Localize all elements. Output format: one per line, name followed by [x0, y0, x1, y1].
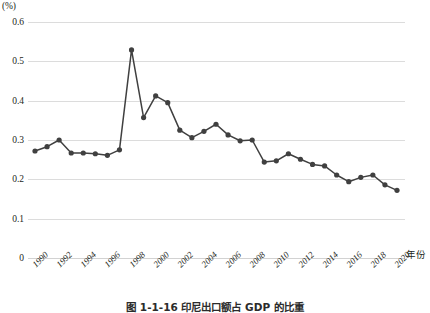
data-point	[117, 147, 122, 152]
data-point	[153, 93, 158, 98]
data-point	[57, 137, 62, 142]
data-point	[32, 148, 37, 153]
data-point	[262, 159, 267, 164]
data-point	[69, 150, 74, 155]
series-markers	[32, 47, 399, 193]
data-point	[81, 150, 86, 155]
data-point	[213, 122, 218, 127]
y-tick-0.3: 0.3	[0, 135, 24, 145]
data-point	[93, 151, 98, 156]
data-point	[334, 172, 339, 177]
y-tick-0.1: 0.1	[0, 214, 24, 224]
data-point	[201, 129, 206, 134]
data-point	[346, 179, 351, 184]
data-point	[370, 172, 375, 177]
data-point	[358, 175, 363, 180]
x-axis-title: 年份	[406, 249, 426, 260]
y-tick-0: 0	[0, 253, 24, 263]
data-point	[141, 115, 146, 120]
data-point	[129, 47, 134, 52]
y-axis-unit-label: (%)	[2, 1, 16, 11]
data-point	[298, 157, 303, 162]
data-point	[165, 100, 170, 105]
y-tick-0.2: 0.2	[0, 174, 24, 184]
data-point	[250, 137, 255, 142]
data-point	[394, 188, 399, 193]
data-point	[322, 163, 327, 168]
data-point	[238, 138, 243, 143]
data-point	[177, 128, 182, 133]
data-point	[225, 132, 230, 137]
data-point	[189, 135, 194, 140]
figure-caption: 图 1-1-16 印尼出口额占 GDP 的比重	[0, 301, 430, 313]
series-polyline	[35, 50, 397, 190]
data-point	[274, 158, 279, 163]
data-point	[310, 162, 315, 167]
plot-area	[28, 22, 405, 258]
y-tick-0.6: 0.6	[0, 17, 24, 27]
data-point	[105, 153, 110, 158]
y-tick-0.5: 0.5	[0, 56, 24, 66]
data-point	[286, 151, 291, 156]
y-tick-0.4: 0.4	[0, 96, 24, 106]
data-point	[382, 182, 387, 187]
data-point	[44, 144, 49, 149]
chart-figure: (%) 00.10.20.30.40.50.6 1990199219941996…	[0, 0, 430, 313]
data-series-line	[28, 22, 405, 258]
